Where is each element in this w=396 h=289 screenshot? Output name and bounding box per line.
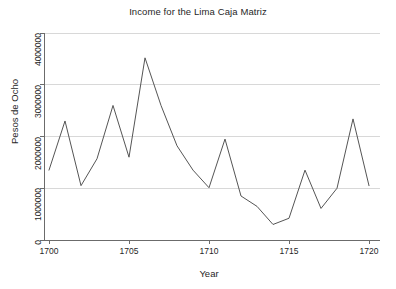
chart-plot-svg [0, 0, 396, 289]
data-series-line [49, 58, 369, 225]
chart-container: Income for the Lima Caja Matriz Pesos de… [0, 0, 396, 289]
gridlines [44, 33, 380, 240]
x-tick-marks [49, 240, 369, 244]
y-tick-marks [40, 33, 44, 240]
